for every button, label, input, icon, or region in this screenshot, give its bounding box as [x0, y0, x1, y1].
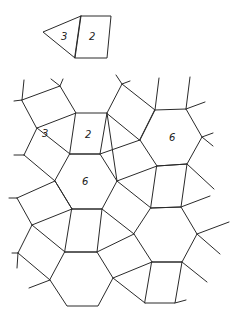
label-square: 2 — [85, 129, 91, 140]
label-hexagon-right: 6 — [169, 132, 175, 143]
legend-tile — [43, 16, 111, 58]
label-triangle: 3 — [42, 128, 48, 139]
label-hexagon-center: 6 — [82, 176, 88, 187]
tiling-diagram: 3 2 — [0, 0, 240, 320]
legend-label-square: 2 — [89, 31, 95, 42]
legend-label-triangle: 3 — [61, 31, 67, 42]
tiling — [9, 75, 229, 306]
